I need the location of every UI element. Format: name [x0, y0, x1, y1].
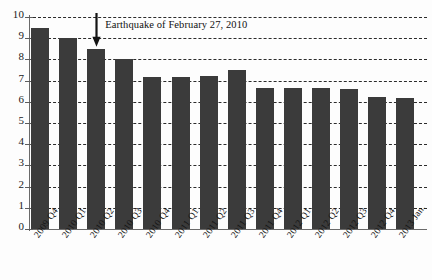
- y-axis-tick-label: 9: [0, 30, 24, 41]
- y-axis-tick-label: 6: [0, 94, 24, 105]
- down-arrow-icon: [92, 13, 101, 47]
- x-axis-labels: 2009 Q42010 Q12010 Q22010 Q32010 Q42011 …: [31, 231, 427, 280]
- bar: [31, 28, 49, 229]
- y-axis-tick-mark: [25, 229, 33, 230]
- y-axis-tick-label: 8: [0, 51, 24, 62]
- y-axis-tick-label: 3: [0, 157, 24, 168]
- y-axis-tick-label: 10: [0, 9, 24, 20]
- y-axis-tick-label: 2: [0, 179, 24, 190]
- y-axis-tick-label: 4: [0, 136, 24, 147]
- earthquake-annotation-label: Earthquake of February 27, 2010: [105, 19, 247, 31]
- bar: [368, 97, 386, 230]
- x-axis-line: [29, 229, 427, 230]
- y-axis-tick-label: 5: [0, 115, 24, 126]
- y-axis-tick-label: 0: [0, 221, 24, 232]
- y-axis-tick-label: 1: [0, 200, 24, 211]
- y-axis-tick-label: 7: [0, 73, 24, 84]
- bar-chart: 012345678910 2009 Q42010 Q12010 Q22010 Q…: [0, 0, 432, 280]
- bar: [396, 98, 414, 229]
